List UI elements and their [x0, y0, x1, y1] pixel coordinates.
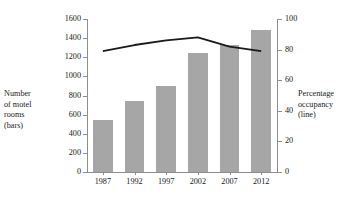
x-axis-tick — [166, 172, 167, 175]
y-axis-tick-right — [278, 50, 282, 51]
x-axis-tick-label: 1997 — [150, 178, 182, 186]
y-axis-tick-right — [278, 19, 282, 20]
y-axis-tick-label-right: 20 — [285, 137, 309, 145]
x-axis-tick — [103, 172, 104, 175]
y-axis-tick-label-right: 80 — [285, 46, 309, 54]
x-axis-tick — [198, 172, 199, 175]
y-axis-tick-right — [278, 111, 282, 112]
y-axis-tick-label-right: 100 — [285, 15, 309, 23]
x-axis-tick-label: 2002 — [182, 178, 214, 186]
chart-screenshot: Number of motel rooms (bars) Percentage … — [0, 0, 358, 197]
y-axis-tick-label-right: 60 — [285, 76, 309, 84]
x-axis-tick-label: 2012 — [245, 178, 277, 186]
y-axis-tick-right — [278, 141, 282, 142]
x-axis-tick-label: 1987 — [87, 178, 119, 186]
bar — [220, 45, 240, 172]
y-axis-tick-label-right: 40 — [285, 107, 309, 115]
x-axis-tick-label: 2007 — [214, 178, 246, 186]
x-axis-tick-label: 1992 — [119, 178, 151, 186]
y-axis-tick-right — [278, 80, 282, 81]
y-axis-title-right: Percentage occupancy (line) — [298, 89, 356, 121]
y-axis-tick-left — [83, 172, 87, 173]
x-axis-line — [87, 172, 278, 173]
y-axis-tick-label-right: 0 — [285, 168, 309, 176]
y-axis-tick-label-left: 0 — [57, 168, 81, 176]
x-axis-tick — [261, 172, 262, 175]
y-axis-tick-right — [278, 172, 282, 173]
x-axis-tick — [230, 172, 231, 175]
occupancy-line-series — [0, 0, 191, 154]
y-axis-line-right — [277, 19, 278, 173]
x-axis-tick — [135, 172, 136, 175]
